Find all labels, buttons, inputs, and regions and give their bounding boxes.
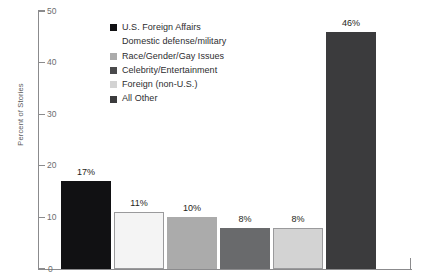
y-axis-tick (38, 10, 45, 11)
y-axis-title: Percent of Stories (16, 55, 25, 175)
bar-value-label: 11% (114, 199, 164, 208)
bar[interactable] (167, 217, 217, 269)
bar[interactable] (326, 32, 376, 269)
legend: U.S. Foreign Affairs Domestic defense/mi… (110, 21, 226, 107)
bar-chart: Percent of Stories 50403020100 U.S. Fore… (0, 0, 421, 276)
y-axis-tick (38, 217, 45, 218)
legend-item-label: Race/Gender/Gay Issues (122, 50, 224, 63)
legend-item-race-gender-gay-issues[interactable]: Race/Gender/Gay Issues (110, 50, 226, 64)
y-axis-tick (38, 114, 45, 115)
y-axis-tick-label: 40 (47, 58, 56, 67)
bar[interactable] (273, 228, 323, 269)
x-axis-line (38, 269, 412, 270)
x-axis-end-tick (410, 258, 411, 270)
legend-item-us-foreign-affairs[interactable]: U.S. Foreign Affairs (110, 21, 226, 35)
y-axis-tick (38, 165, 45, 166)
legend-item-label: U.S. Foreign Affairs (122, 21, 201, 34)
y-axis-tick-label: 50 (47, 7, 56, 16)
legend-swatch-icon (110, 67, 117, 74)
legend-item-foreign-non-us[interactable]: Foreign (non-U.S.) (110, 78, 226, 92)
bar-value-label: 8% (220, 215, 270, 224)
y-axis-tick-label: 0 (48, 265, 53, 274)
legend-swatch-icon (110, 24, 117, 31)
legend-swatch-icon (110, 96, 117, 103)
y-axis-tick-label: 10 (47, 213, 56, 222)
legend-item-label: All Other (122, 92, 157, 105)
legend-item-all-other[interactable]: All Other (110, 92, 226, 106)
legend-item-celebrity-entertainment[interactable]: Celebrity/Entertainment (110, 64, 226, 78)
y-axis-line (38, 11, 39, 270)
y-axis-tick-label: 20 (47, 161, 56, 170)
legend-item-label: Foreign (non-U.S.) (122, 78, 197, 91)
bar-value-label: 8% (273, 215, 323, 224)
y-axis-tick (38, 268, 45, 269)
bar-value-label: 46% (326, 19, 376, 28)
y-axis-tick (38, 62, 45, 63)
legend-item-domestic-defense-military[interactable]: Domestic defense/military (110, 35, 226, 49)
legend-item-label: Domestic defense/military (122, 35, 226, 48)
y-axis-tick-label: 30 (47, 110, 56, 119)
bar[interactable] (220, 228, 270, 269)
bar[interactable] (61, 181, 111, 269)
bar-value-label: 10% (167, 204, 217, 213)
legend-item-label: Celebrity/Entertainment (122, 64, 217, 77)
legend-swatch-icon (110, 53, 117, 60)
bar-value-label: 17% (61, 168, 111, 177)
bar[interactable] (114, 212, 164, 269)
legend-swatch-icon (110, 81, 117, 88)
